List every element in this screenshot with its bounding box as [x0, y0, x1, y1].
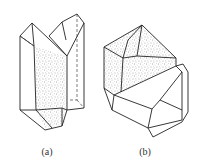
crystal-figure	[0, 0, 199, 167]
crystal-b	[104, 25, 188, 137]
caption-a: (a)	[32, 146, 62, 157]
caption-b: (b)	[130, 146, 160, 157]
crystal-a	[20, 14, 84, 130]
